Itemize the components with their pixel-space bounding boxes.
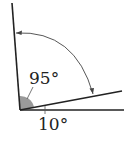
arrowhead-left-icon <box>16 31 22 36</box>
angle-label-10: 10° <box>38 116 68 133</box>
arrowhead-right-icon <box>90 88 95 94</box>
slanted-ray <box>20 91 122 110</box>
leader-line-95 <box>27 87 33 99</box>
angle-label-95: 95° <box>29 70 59 87</box>
vertical-ray <box>12 3 20 110</box>
